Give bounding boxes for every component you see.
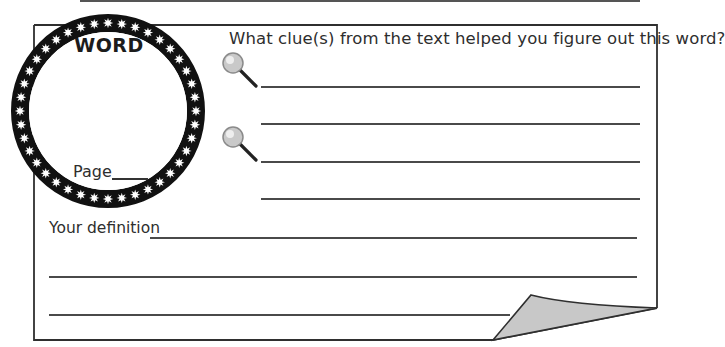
- star-icon: [174, 158, 184, 168]
- definition-line-3[interactable]: [49, 314, 510, 316]
- star-icon: [15, 106, 25, 116]
- star-icon: [41, 44, 51, 54]
- clue-2-line-2[interactable]: [261, 198, 640, 200]
- star-icon: [165, 44, 175, 54]
- star-icon: [16, 120, 26, 130]
- star-icon: [190, 120, 200, 130]
- star-icon: [16, 92, 26, 102]
- star-icon: [76, 189, 86, 199]
- star-icon: [165, 168, 175, 178]
- star-icon: [32, 158, 42, 168]
- star-icon: [155, 35, 165, 45]
- star-icon: [19, 133, 29, 143]
- star-icon: [186, 79, 196, 89]
- star-icon: [51, 35, 61, 45]
- star-icon: [155, 177, 165, 187]
- star-icon: [103, 194, 113, 204]
- star-icon: [117, 19, 127, 29]
- star-icon: [130, 189, 140, 199]
- star-icon: [117, 193, 127, 203]
- clue-question: What clue(s) from the text helped you fi…: [229, 29, 725, 48]
- page-curl-icon: [493, 295, 657, 340]
- star-icon: [24, 66, 34, 76]
- star-icon: [19, 79, 29, 89]
- star-icon: [191, 106, 201, 116]
- star-icon: [181, 146, 191, 156]
- star-icon: [181, 66, 191, 76]
- definition-label: Your definition: [49, 219, 160, 237]
- page-number-field[interactable]: [112, 178, 148, 180]
- star-icon: [143, 184, 153, 194]
- clue-1-line-2[interactable]: [261, 123, 640, 125]
- word-label: WORD: [66, 34, 152, 56]
- star-icon: [130, 22, 140, 32]
- page-label: Page: [73, 162, 112, 181]
- star-icon: [63, 184, 73, 194]
- magnifying-glass-icon: [223, 53, 256, 86]
- star-icon: [51, 177, 61, 187]
- star-icon: [103, 18, 113, 28]
- star-icon: [174, 54, 184, 64]
- star-icon: [190, 92, 200, 102]
- magnifying-glass-icon: [223, 127, 256, 160]
- star-icon: [41, 168, 51, 178]
- clue-2-line-1[interactable]: [261, 161, 640, 163]
- star-icon: [89, 193, 99, 203]
- star-icon: [186, 133, 196, 143]
- clue-1-line-1[interactable]: [261, 86, 640, 88]
- definition-line-2[interactable]: [49, 276, 637, 278]
- star-icon: [32, 54, 42, 64]
- star-icon: [89, 19, 99, 29]
- star-icon: [76, 22, 86, 32]
- definition-line-1[interactable]: [150, 237, 637, 239]
- star-icon: [24, 146, 34, 156]
